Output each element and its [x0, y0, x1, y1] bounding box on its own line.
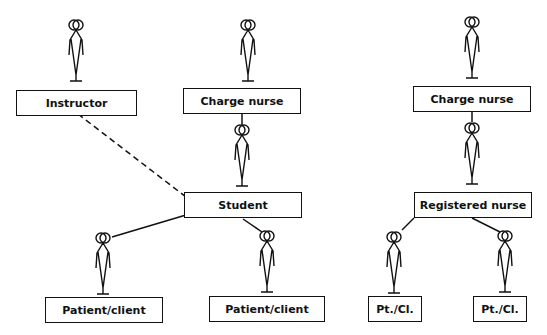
- right-charge-nurse-label: Charge nurse: [430, 93, 513, 106]
- patient2-figure-icon: [260, 231, 274, 292]
- charge-nurse-label: Charge nurse: [200, 95, 283, 108]
- patient-client-box-2: Patient/client: [209, 296, 325, 322]
- pt-cl-label-1: Pt./Cl.: [376, 303, 414, 316]
- line-rn-pt1: [402, 218, 414, 230]
- patient-client-box-1: Patient/client: [45, 297, 163, 323]
- registered-nurse-box: Registered nurse: [414, 192, 532, 218]
- registered-nurse-figure-icon: [465, 123, 479, 184]
- patient-client-label-2: Patient/client: [225, 303, 308, 316]
- instructor-box: Instructor: [16, 90, 137, 116]
- patient-client-label-1: Patient/client: [62, 304, 145, 317]
- right-charge-nurse-figure-icon: [465, 17, 479, 78]
- right-charge-nurse-box: Charge nurse: [413, 86, 531, 112]
- instructor-label: Instructor: [46, 97, 108, 110]
- pt1-figure-icon: [387, 232, 401, 293]
- pt2-figure-icon: [498, 231, 512, 292]
- student-label: Student: [218, 199, 267, 212]
- pt-cl-box-1: Pt./Cl.: [368, 296, 422, 322]
- connector-lines: [0, 0, 547, 335]
- registered-nurse-label: Registered nurse: [420, 199, 527, 212]
- pt-cl-box-2: Pt./Cl.: [473, 296, 527, 322]
- instructor-figure-icon: [69, 20, 83, 81]
- charge-nurse-figure-icon: [241, 20, 255, 81]
- line-student-patient2: [243, 219, 262, 232]
- pt-cl-label-2: Pt./Cl.: [481, 303, 519, 316]
- student-box: Student: [184, 192, 302, 218]
- line-rn-pt2: [472, 218, 500, 232]
- line-student-patient1: [112, 215, 186, 237]
- charge-nurse-box: Charge nurse: [183, 88, 301, 114]
- dashed-line-instructor-student: [78, 114, 186, 197]
- patient1-figure-icon: [96, 233, 110, 294]
- person-figures: [69, 17, 512, 294]
- student-figure-icon: [235, 125, 249, 186]
